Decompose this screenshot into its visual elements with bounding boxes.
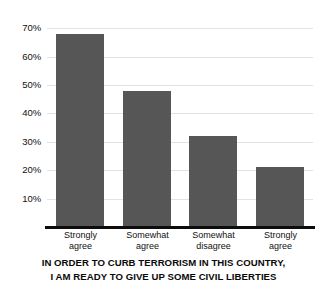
- x-axis-category-label: Stronglyagree: [247, 230, 314, 252]
- bar: [256, 167, 304, 227]
- category-label-line: Somewhat: [114, 230, 181, 241]
- y-axis-tick-label: 50%: [22, 80, 41, 90]
- chart-caption: IN ORDER TO CURB TERRORISM IN THIS COUNT…: [0, 256, 327, 283]
- x-axis-category-label: Somewhatdisagree: [180, 230, 247, 252]
- plot-area: 10%20%30%40%50%60%70%: [47, 14, 313, 227]
- category-label-line: agree: [114, 241, 181, 252]
- x-axis-category-label: Somewhatagree: [114, 230, 181, 252]
- y-axis-tick-label: 70%: [22, 23, 41, 33]
- caption-line: I AM READY TO GIVE UP SOME CIVIL LIBERTI…: [0, 270, 327, 284]
- bar: [189, 136, 237, 227]
- y-axis-tick-label: 30%: [22, 137, 41, 147]
- category-label-line: agree: [47, 241, 114, 252]
- y-axis-tick-label: 20%: [22, 165, 41, 175]
- category-label-line: agree: [247, 241, 314, 252]
- category-label-line: Somewhat: [180, 230, 247, 241]
- x-axis-category-labels: StronglyagreeSomewhatagreeSomewhatdisagr…: [47, 230, 313, 256]
- x-axis-category-label: Stronglyagree: [47, 230, 114, 252]
- bar-chart-figure: 10%20%30%40%50%60%70% StronglyagreeSomew…: [0, 0, 327, 292]
- bar: [123, 91, 171, 227]
- caption-line: IN ORDER TO CURB TERRORISM IN THIS COUNT…: [0, 256, 327, 270]
- gridline: [47, 28, 313, 29]
- y-axis-tick-label: 40%: [22, 109, 41, 119]
- category-label-line: disagree: [180, 241, 247, 252]
- category-label-line: Strongly: [47, 230, 114, 241]
- y-axis-tick-label: 10%: [22, 194, 41, 204]
- x-axis-line: [45, 226, 315, 229]
- y-axis-tick-label: 60%: [22, 52, 41, 62]
- category-label-line: Strongly: [247, 230, 314, 241]
- bar: [56, 34, 104, 227]
